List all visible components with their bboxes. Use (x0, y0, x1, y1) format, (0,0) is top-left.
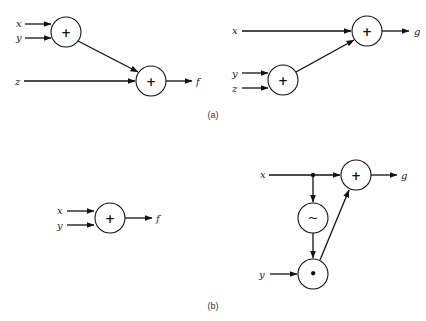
input-label-x: x (232, 25, 238, 36)
input-label-x: x (57, 205, 63, 216)
plus-icon: + (362, 25, 372, 39)
part-b-g-diagram: x y + ~ • g (258, 160, 407, 289)
input-label-x: x (16, 18, 22, 29)
plus-icon: + (105, 212, 115, 226)
input-label-x: x (260, 169, 266, 180)
input-label-z: z (14, 76, 21, 87)
output-label-f: f (155, 213, 162, 224)
plus-icon: + (61, 26, 71, 40)
plus-icon: + (146, 75, 156, 89)
input-label-z: z (231, 83, 238, 94)
output-label-g: g (401, 170, 407, 181)
diagram-canvas: x y z + + f x y z + + g (a) x y (0, 0, 426, 321)
input-label-y: y (15, 32, 22, 43)
edge-plus1-to-plus2 (78, 41, 138, 72)
part-a-f-diagram: x y z + + f (14, 17, 202, 96)
plus-icon: + (351, 169, 361, 183)
tilde-icon: ~ (308, 210, 319, 225)
output-label-g: g (414, 26, 420, 37)
dot-icon: • (309, 267, 317, 281)
caption-a: (a) (208, 110, 219, 120)
plus-icon: + (278, 74, 288, 88)
part-b-f-diagram: x y + f (56, 203, 162, 233)
output-label-f: f (195, 76, 202, 87)
edge-plus3-to-plus4 (296, 40, 354, 72)
part-a-g-diagram: x y z + + g (231, 16, 420, 95)
input-label-y: y (258, 269, 265, 280)
input-label-y: y (231, 68, 238, 79)
caption-b: (b) (208, 301, 219, 311)
input-label-y: y (56, 220, 63, 231)
